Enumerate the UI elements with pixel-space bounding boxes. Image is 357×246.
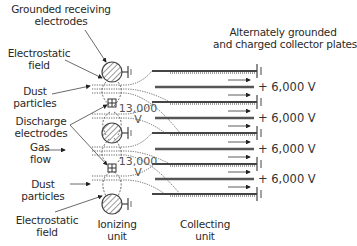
plate-voltage: + 6,000 V [258,143,316,155]
label-electrostatic-field-top: Electrostatic field [4,47,74,71]
grounded-plate [152,157,261,171]
label-electrostatic-field-bottom: Electrostatic field [12,214,82,238]
label-collecting-unit: Collecting unit [180,218,230,242]
grounded-plate [152,187,261,201]
label-dust-particles-top: Dust particles [10,85,60,109]
grounded-plate [152,95,261,109]
grounded-plate [152,126,261,140]
receiving-electrode [102,194,131,214]
discharge-voltage-top: 13,000 V [118,103,158,125]
discharge-voltage-bottom: 13,000 V [118,156,158,178]
discharge-electrode [108,164,116,172]
receiving-electrode [102,62,131,82]
plate-voltage: + 6,000 V [258,173,316,185]
label-dust-particles-bottom: Dust particles [18,178,68,202]
receiving-electrode [102,123,131,143]
label-collector-plates: Alternately grounded and charged collect… [213,26,353,50]
grounded-plate [152,64,261,78]
label-ionizing-unit: Ionizing unit [92,218,142,242]
label-gas-flow: Gas flow [30,141,51,165]
label-discharge-electrodes: Discharge electrodes [10,115,72,139]
plate-voltage: + 6,000 V [258,81,316,93]
plate-voltage: + 6,000 V [258,112,316,124]
discharge-electrode [108,99,116,107]
label-grounded-receiving: Grounded receiving electrodes [6,3,116,27]
